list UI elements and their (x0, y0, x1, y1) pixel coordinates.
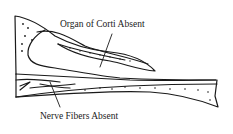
organ-of-corti-label: Organ of Corti Absent (60, 20, 145, 30)
nerve-fibers-label: Nerve Fibers Absent (40, 112, 118, 122)
reissner-membrane (28, 30, 216, 80)
